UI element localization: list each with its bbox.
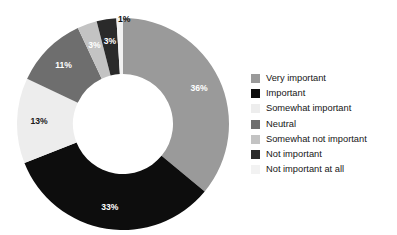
legend-item[interactable]: Important: [251, 86, 391, 101]
legend-item-label: Somewhat important: [266, 104, 351, 113]
slice-data-label: 33%: [101, 202, 119, 212]
slice-data-label: 11%: [55, 60, 72, 70]
legend-swatch-icon: [251, 150, 260, 159]
chart-legend: Very importantImportantSomewhat importan…: [251, 71, 391, 177]
slice-data-label: 13%: [30, 116, 48, 126]
legend-item-label: Important: [266, 89, 305, 98]
legend-item-label: Somewhat not important: [266, 135, 367, 144]
legend-swatch-icon: [251, 135, 260, 144]
legend-swatch-icon: [251, 74, 260, 83]
legend-item[interactable]: Not important: [251, 147, 391, 162]
legend-item-label: Not important at all: [266, 165, 344, 174]
legend-swatch-icon: [251, 104, 260, 113]
legend-swatch-icon: [251, 89, 260, 98]
slice-data-label: 3%: [104, 36, 117, 46]
legend-item-label: Not important: [266, 150, 322, 159]
legend-item-label: Neutral: [266, 120, 296, 129]
legend-item[interactable]: Neutral: [251, 117, 391, 132]
legend-item-label: Very important: [266, 74, 326, 83]
slice-data-label: 36%: [190, 83, 208, 93]
legend-swatch-icon: [251, 165, 260, 174]
slice-data-label: 3%: [88, 40, 101, 50]
slice-data-label-outside: 1%: [118, 14, 130, 24]
legend-item[interactable]: Somewhat not important: [251, 132, 391, 147]
donut-chart: 36%33%13%11%3%3%: [13, 14, 233, 234]
donut-chart-svg: 36%33%13%11%3%3%: [13, 14, 233, 234]
legend-item[interactable]: Very important: [251, 71, 391, 86]
legend-item[interactable]: Somewhat important: [251, 101, 391, 116]
legend-item[interactable]: Not important at all: [251, 162, 391, 177]
legend-swatch-icon: [251, 120, 260, 129]
donut-chart-figure: 36%33%13%11%3%3% 1% Very importantImport…: [0, 0, 397, 235]
donut-slice-group: [17, 18, 229, 230]
donut-slice[interactable]: [123, 18, 229, 192]
